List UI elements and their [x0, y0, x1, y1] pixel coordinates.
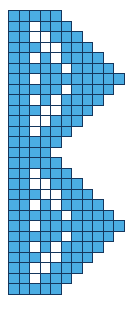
pattern-grid	[8, 10, 124, 294]
pattern-row	[8, 283, 124, 295]
pixel-pattern-canvas	[0, 0, 134, 331]
pattern-cell-blank	[113, 283, 125, 295]
